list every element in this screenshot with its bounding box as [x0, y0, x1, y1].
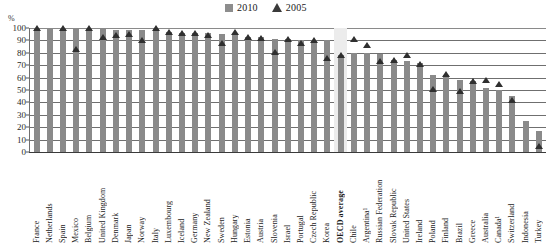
bar-group[interactable]: [294, 28, 307, 152]
bar-group[interactable]: [215, 28, 228, 152]
marker-2005[interactable]: [112, 32, 120, 38]
marker-2005[interactable]: [390, 57, 398, 63]
bar-2010[interactable]: [523, 121, 529, 152]
bar-2010[interactable]: [179, 33, 185, 152]
marker-2005[interactable]: [508, 97, 516, 103]
bar-2010[interactable]: [404, 61, 410, 152]
bar-group[interactable]: [30, 28, 43, 152]
bar-group[interactable]: [162, 28, 175, 152]
marker-2005[interactable]: [99, 34, 107, 40]
marker-2005[interactable]: [59, 25, 67, 31]
marker-2005[interactable]: [323, 55, 331, 61]
marker-2005[interactable]: [165, 29, 173, 35]
bar-2010[interactable]: [443, 75, 449, 152]
marker-2005[interactable]: [138, 37, 146, 43]
bar-group[interactable]: [202, 28, 215, 152]
bar-group[interactable]: [440, 28, 453, 152]
bar-group[interactable]: [387, 28, 400, 152]
bar-group[interactable]: [189, 28, 202, 152]
bar-group[interactable]: [413, 28, 426, 152]
bar-group[interactable]: [96, 28, 109, 152]
bar-2010[interactable]: [311, 40, 317, 152]
marker-2005[interactable]: [297, 40, 305, 46]
bar-2010[interactable]: [364, 53, 370, 152]
bar-2010[interactable]: [417, 63, 423, 152]
marker-2005[interactable]: [350, 36, 358, 42]
bar-2010[interactable]: [34, 28, 40, 152]
marker-2005[interactable]: [191, 30, 199, 36]
bar-2010[interactable]: [536, 131, 542, 152]
bar-2010[interactable]: [351, 53, 357, 152]
marker-2005[interactable]: [495, 81, 503, 87]
bar-group[interactable]: [308, 28, 321, 152]
marker-2005[interactable]: [85, 25, 93, 31]
bar-group[interactable]: [228, 28, 241, 152]
marker-2005[interactable]: [429, 86, 437, 92]
marker-2005[interactable]: [363, 42, 371, 48]
marker-2005[interactable]: [33, 25, 41, 31]
bar-2010[interactable]: [86, 28, 92, 152]
marker-2005[interactable]: [231, 29, 239, 35]
marker-2005[interactable]: [456, 88, 464, 94]
bar-group[interactable]: [506, 28, 519, 152]
bar-2010[interactable]: [113, 30, 119, 152]
bar-group[interactable]: [242, 28, 255, 152]
marker-2005[interactable]: [72, 46, 80, 52]
bar-group[interactable]: [360, 28, 373, 152]
bar-2010[interactable]: [245, 37, 251, 152]
marker-2005[interactable]: [337, 52, 345, 58]
bar-2010[interactable]: [219, 34, 225, 152]
bar-2010[interactable]: [272, 39, 278, 152]
bar-group[interactable]: [479, 28, 492, 152]
marker-2005[interactable]: [469, 78, 477, 84]
bar-2010[interactable]: [509, 96, 515, 152]
marker-2005[interactable]: [218, 40, 226, 46]
bar-2010[interactable]: [338, 55, 344, 152]
marker-2005[interactable]: [244, 34, 252, 40]
bar-2010[interactable]: [391, 60, 397, 152]
bar-group[interactable]: [70, 28, 83, 152]
bar-group[interactable]: [56, 28, 69, 152]
bar-group[interactable]: [268, 28, 281, 152]
marker-2005[interactable]: [535, 143, 543, 149]
bar-2010[interactable]: [60, 28, 66, 152]
bar-group[interactable]: [255, 28, 268, 152]
bar-2010[interactable]: [298, 40, 304, 152]
marker-2005[interactable]: [204, 32, 212, 38]
bar-group[interactable]: [83, 28, 96, 152]
bar-group[interactable]: [334, 28, 347, 152]
bar-2010[interactable]: [232, 34, 238, 152]
bar-2010[interactable]: [100, 29, 106, 152]
bar-group[interactable]: [493, 28, 506, 152]
bar-2010[interactable]: [126, 30, 132, 152]
bar-group[interactable]: [281, 28, 294, 152]
bar-group[interactable]: [466, 28, 479, 152]
bar-2010[interactable]: [483, 88, 489, 152]
bar-2010[interactable]: [153, 28, 159, 152]
bar-2010[interactable]: [205, 33, 211, 152]
bar-group[interactable]: [347, 28, 360, 152]
marker-2005[interactable]: [125, 31, 133, 37]
bar-2010[interactable]: [258, 37, 264, 152]
marker-2005[interactable]: [257, 35, 265, 41]
marker-2005[interactable]: [442, 71, 450, 77]
bar-group[interactable]: [427, 28, 440, 152]
bar-2010[interactable]: [139, 30, 145, 152]
bar-2010[interactable]: [192, 33, 198, 152]
bar-group[interactable]: [136, 28, 149, 152]
bar-group[interactable]: [175, 28, 188, 152]
bar-2010[interactable]: [285, 39, 291, 152]
bar-2010[interactable]: [470, 81, 476, 152]
bar-2010[interactable]: [166, 32, 172, 152]
bar-2010[interactable]: [496, 90, 502, 152]
bar-group[interactable]: [453, 28, 466, 152]
bar-2010[interactable]: [47, 28, 53, 152]
marker-2005[interactable]: [310, 37, 318, 43]
marker-2005[interactable]: [416, 61, 424, 67]
marker-2005[interactable]: [376, 58, 384, 64]
bar-group[interactable]: [43, 28, 56, 152]
marker-2005[interactable]: [284, 36, 292, 42]
bar-2010[interactable]: [377, 54, 383, 152]
bar-group[interactable]: [532, 28, 545, 152]
bar-group[interactable]: [374, 28, 387, 152]
